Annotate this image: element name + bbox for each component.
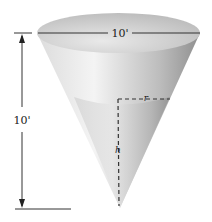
- cone-diagram: 10' 10' r h: [0, 0, 212, 222]
- arrow-up-icon: [19, 34, 25, 43]
- water-volume: [74, 97, 170, 208]
- water-height-label: h: [115, 145, 121, 155]
- diameter-label: 10': [111, 27, 128, 40]
- radius-label: r: [144, 93, 149, 103]
- height-label: 10': [13, 114, 30, 127]
- arrow-down-icon: [19, 199, 25, 208]
